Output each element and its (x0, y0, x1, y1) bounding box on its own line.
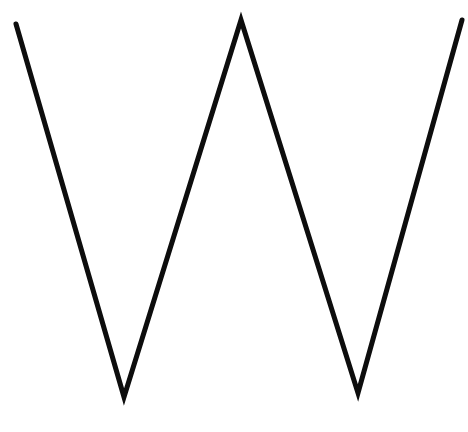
letter-w-figure (0, 0, 468, 432)
letter-w-drawing (0, 0, 468, 432)
w-zigzag-line (16, 20, 462, 397)
